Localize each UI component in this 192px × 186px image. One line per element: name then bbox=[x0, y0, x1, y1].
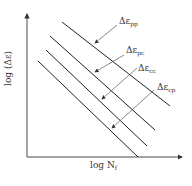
strain-life-diagram: Δεpp Δεpc Δεcc Δεcp log (Δε) log Nf bbox=[0, 0, 192, 186]
line-cp bbox=[38, 61, 138, 157]
label-cp: Δεcp bbox=[157, 82, 175, 93]
y-axis-label: log (Δε) bbox=[3, 51, 13, 86]
line-cc bbox=[46, 50, 147, 146]
label-pc: Δεpc bbox=[126, 45, 144, 56]
arrow-pc bbox=[95, 55, 124, 72]
label-pp: Δεpp bbox=[119, 16, 138, 27]
x-axis-label: log Nf bbox=[90, 160, 117, 171]
arrow-cc bbox=[102, 68, 137, 99]
arrow-cp bbox=[112, 90, 154, 128]
arrow-pp bbox=[95, 25, 117, 43]
label-cc: Δεcc bbox=[138, 63, 156, 74]
diagram-canvas bbox=[0, 0, 192, 186]
